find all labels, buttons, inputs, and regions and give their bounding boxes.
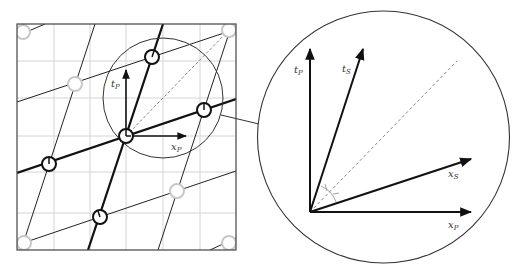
zoom-panel: tP tS xS xP [258,11,510,263]
magnifier-connector [221,115,259,124]
faded-clock-icon [170,184,184,198]
clock-icon [197,103,211,117]
clock-icon [42,157,56,171]
light-ray-dashed [126,30,229,136]
tp-label: tP [111,78,120,91]
faded-clock-icon [16,25,30,39]
faded-clock-icon [222,23,236,37]
clock-icon [93,210,107,224]
spacetime-diagram: tP xP [0,0,521,276]
left-panel: tP xP [16,23,236,250]
clock-icon [119,129,133,143]
faded-clock-icon [222,236,236,250]
clock-icon [145,50,159,64]
xp-label: xP [171,141,182,154]
faded-clock-icon [17,236,31,250]
faded-clock-icon [68,77,82,91]
